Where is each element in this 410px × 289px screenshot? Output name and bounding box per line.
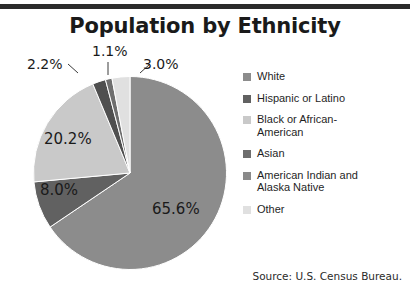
slice-value-hispanic: 8.0% xyxy=(40,181,78,199)
pie-slices xyxy=(33,77,226,270)
legend-item-label: Hispanic or Latino xyxy=(257,92,345,105)
pie-chart xyxy=(33,76,227,270)
legend-item-hispanic-or-latino[interactable]: Hispanic or Latino xyxy=(243,92,403,105)
legend-swatch-icon xyxy=(243,116,251,124)
slice-value-black: 20.2% xyxy=(44,130,92,148)
chart-legend: White Hispanic or Latino Black or Africa… xyxy=(243,70,403,224)
source-note: Source: U.S. Census Bureau. xyxy=(252,270,402,282)
legend-swatch-icon xyxy=(243,95,251,103)
legend-item-white[interactable]: White xyxy=(243,70,403,83)
pie-chart-svg xyxy=(33,76,227,270)
header-rule xyxy=(0,4,410,9)
slice-value-white: 65.6% xyxy=(152,200,200,218)
legend-item-label: Asian xyxy=(257,147,285,160)
leader-line-american-indian xyxy=(68,64,78,73)
legend-item-label: Other xyxy=(257,203,285,216)
legend-item-label: White xyxy=(257,70,285,83)
legend-swatch-icon xyxy=(243,206,251,214)
legend-item-label: American Indian and Alaska Native xyxy=(257,169,358,194)
legend-swatch-icon xyxy=(243,150,251,158)
slice-value-other: 3.0% xyxy=(143,56,179,72)
legend-swatch-icon xyxy=(243,172,251,180)
legend-item-asian[interactable]: Asian xyxy=(243,147,403,160)
slice-value-american-indian: 2.2% xyxy=(27,56,63,72)
legend-item-black-or-african-american[interactable]: Black or African- American xyxy=(243,113,403,138)
legend-swatch-icon xyxy=(243,73,251,81)
legend-item-label: Black or African- American xyxy=(257,113,337,138)
legend-item-other[interactable]: Other xyxy=(243,203,403,216)
slice-value-asian: 1.1% xyxy=(92,43,128,59)
legend-item-american-indian-and-alaska-native[interactable]: American Indian and Alaska Native xyxy=(243,169,403,194)
chart-title: Population by Ethnicity xyxy=(0,14,410,38)
